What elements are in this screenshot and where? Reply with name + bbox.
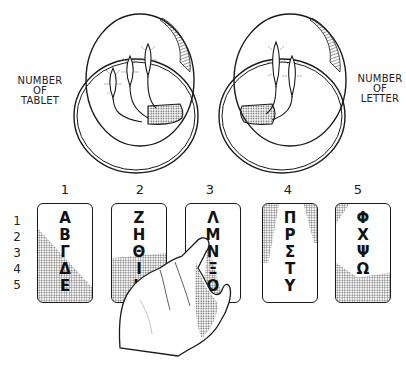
pointing-hand-icon (0, 0, 406, 368)
polybius-torch-diagram: NUMBER OF TABLET NUMBER OF LETTER 1 2 3 … (0, 0, 406, 368)
